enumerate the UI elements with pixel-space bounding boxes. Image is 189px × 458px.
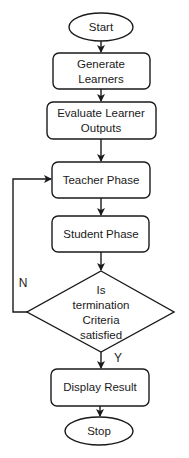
student-label: Student Phase <box>63 228 138 240</box>
generate-label-line2: Learners <box>78 73 124 85</box>
evaluate-label-line2: Outputs <box>81 122 122 134</box>
generate-learners-node: Generate Learners <box>53 53 150 89</box>
generate-label-line1: Generate <box>77 58 125 70</box>
decision-label-line4: satisfied <box>80 329 122 341</box>
decision-label-line2: termination <box>73 299 130 311</box>
stop-label: Stop <box>87 425 111 437</box>
display-label: Display Result <box>63 381 137 393</box>
flowchart: Start Generate Learners Evaluate Learner… <box>0 0 189 458</box>
no-label: N <box>19 276 28 290</box>
student-phase-node: Student Phase <box>52 216 149 252</box>
edge-decision-no-loop <box>13 179 51 312</box>
yes-label: Y <box>114 351 122 365</box>
stop-node: Stop <box>65 417 133 445</box>
evaluate-outputs-node: Evaluate Learner Outputs <box>47 102 156 139</box>
decision-label-line3: Criteria <box>82 314 120 326</box>
teacher-label: Teacher Phase <box>63 174 140 186</box>
start-label: Start <box>89 21 114 33</box>
start-node: Start <box>69 13 133 41</box>
display-result-node: Display Result <box>51 369 149 406</box>
teacher-phase-node: Teacher Phase <box>52 162 150 198</box>
decision-label-line1: Is <box>97 284 106 296</box>
evaluate-label-line1: Evaluate Learner <box>57 107 145 119</box>
termination-decision-node: Is termination Criteria satisfied <box>27 271 174 352</box>
